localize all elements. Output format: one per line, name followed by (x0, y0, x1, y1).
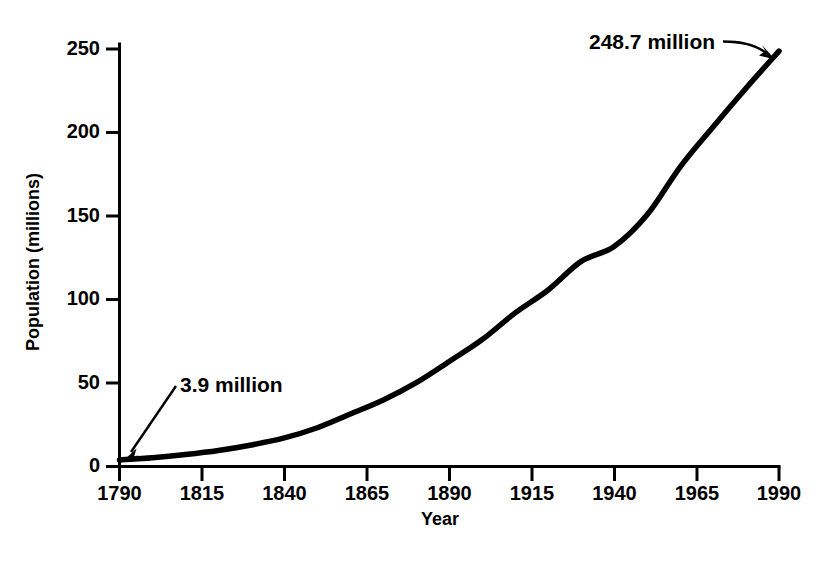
population-growth-chart: 0 50 100 150 200 250 1790 1815 1840 1865… (0, 0, 822, 568)
y-tick-label-250: 250 (67, 37, 100, 59)
x-tick-label-1790: 1790 (97, 482, 142, 504)
start-annotation-label: 3.9 million (180, 373, 283, 396)
population-curve (120, 51, 780, 460)
y-tick-label-50: 50 (78, 371, 100, 393)
y-axis-title: Population (millions) (23, 173, 43, 351)
end-annotation: 248.7 million (589, 30, 775, 60)
y-axis-tick-labels: 0 50 100 150 200 250 (67, 37, 100, 477)
end-annotation-arrowhead (759, 45, 775, 60)
y-tick-label-100: 100 (67, 287, 100, 309)
x-axis-title: Year (421, 509, 459, 529)
x-tick-label-1890: 1890 (427, 482, 472, 504)
start-annotation: 3.9 million (123, 373, 283, 462)
x-axis-ticks (120, 467, 780, 482)
x-tick-label-1965: 1965 (675, 482, 720, 504)
start-annotation-leader (131, 386, 176, 452)
y-tick-label-150: 150 (67, 204, 100, 226)
x-tick-label-1840: 1840 (262, 482, 307, 504)
y-tick-label-0: 0 (89, 454, 100, 476)
x-tick-label-1815: 1815 (180, 482, 225, 504)
x-tick-label-1865: 1865 (345, 482, 390, 504)
x-tick-label-1990: 1990 (757, 482, 802, 504)
end-annotation-leader (723, 42, 766, 54)
chart-container: 0 50 100 150 200 250 1790 1815 1840 1865… (0, 0, 822, 568)
y-tick-label-200: 200 (67, 120, 100, 142)
x-tick-label-1915: 1915 (510, 482, 555, 504)
x-tick-label-1940: 1940 (592, 482, 637, 504)
x-axis-tick-labels: 1790 1815 1840 1865 1890 1915 1940 1965 … (97, 482, 801, 504)
end-annotation-label: 248.7 million (589, 30, 715, 53)
y-axis-ticks (106, 49, 120, 467)
